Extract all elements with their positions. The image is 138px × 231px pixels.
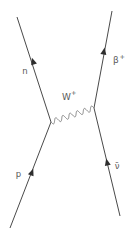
neutron-label: n — [22, 66, 27, 76]
feynman-diagram: n p W + β + ν̄ — [0, 0, 138, 231]
w-boson-wavy-line — [51, 106, 94, 124]
proton-label: p — [16, 169, 21, 179]
positron-line — [94, 11, 112, 108]
proton-arrow-icon — [28, 168, 36, 177]
positron-label: β — [113, 55, 119, 65]
positron-label-superscript: + — [120, 53, 125, 61]
antineutrino-label: ν̄ — [115, 161, 120, 171]
antineutrino-arrow-icon — [103, 158, 110, 166]
w-boson-label-superscript: + — [71, 89, 76, 97]
feynman-diagram-canvas: n p W + β + ν̄ — [0, 0, 138, 231]
w-boson-label: W — [62, 92, 71, 102]
positron-arrow-icon — [100, 47, 107, 55]
